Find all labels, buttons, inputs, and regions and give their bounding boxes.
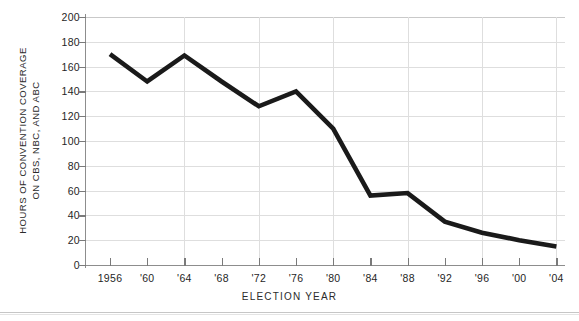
x-axis-title: ELECTION YEAR: [0, 291, 579, 302]
y-axis-title-line-2: ON CBS, NBC, AND ABC: [29, 47, 42, 234]
y-axis-tick: [79, 141, 86, 142]
gridline-horizontal: [85, 91, 565, 92]
y-axis-tick-label: 140: [52, 85, 80, 97]
x-axis-tick: [333, 258, 334, 266]
gridline-vertical: [408, 17, 409, 265]
y-axis-tick: [79, 91, 86, 92]
x-axis-tick: [296, 258, 297, 266]
page-bottom-rule-secondary: [0, 314, 579, 315]
y-axis-tick: [79, 166, 86, 167]
gridline-vertical: [333, 17, 334, 265]
plot-area: [85, 17, 565, 265]
gridline-horizontal: [85, 240, 565, 241]
x-axis-tick-label: '04: [549, 272, 564, 284]
y-axis-tick: [79, 240, 86, 241]
gridline-horizontal: [85, 42, 565, 43]
x-axis-tick-label: '84: [363, 272, 378, 284]
x-axis-tick-label: '92: [438, 272, 453, 284]
x-axis-tick: [184, 258, 185, 266]
x-axis-tick-label: '64: [177, 272, 192, 284]
y-axis-tick: [79, 67, 86, 68]
y-axis-tick-labels: 200180160140120100806040200: [52, 0, 80, 321]
y-axis-tick-label: 120: [52, 110, 80, 122]
gridline-horizontal: [85, 17, 565, 18]
x-axis-tick-label: '88: [400, 272, 415, 284]
x-axis-tick: [445, 258, 446, 266]
gridline-horizontal: [85, 141, 565, 142]
x-axis-line: [78, 265, 565, 266]
x-axis-tick-label: 1956: [98, 272, 123, 284]
gridline-horizontal: [85, 166, 565, 167]
y-axis-tick: [79, 17, 86, 18]
x-axis-tick: [147, 258, 148, 266]
y-axis-tick-label: 20: [52, 234, 80, 246]
y-axis-tick: [79, 265, 86, 266]
x-axis-tick-label: '68: [214, 272, 229, 284]
x-axis-tick-label: '96: [475, 272, 490, 284]
x-axis-tick: [408, 258, 409, 266]
x-axis-tick-label: '72: [252, 272, 267, 284]
y-axis-tick-label: 180: [52, 36, 80, 48]
y-axis-tick: [79, 116, 86, 117]
gridline-horizontal: [85, 67, 565, 68]
gridline-vertical: [556, 17, 557, 265]
gridline-horizontal: [85, 116, 565, 117]
x-axis-tick: [222, 258, 223, 266]
x-axis-tick: [519, 258, 520, 266]
gridline-horizontal: [85, 215, 565, 216]
gridline-vertical: [184, 17, 185, 265]
page-bottom-rule: [0, 312, 579, 313]
y-axis-tick: [79, 191, 86, 192]
y-axis-tick-label: 200: [52, 11, 80, 23]
chart-screenshot: HOURS OF CONVENTION COVERAGE ON CBS, NBC…: [0, 0, 579, 321]
y-axis-tick-label: 60: [52, 185, 80, 197]
x-axis-tick-label: '80: [326, 272, 341, 284]
x-axis-tick-label: '00: [512, 272, 527, 284]
x-axis-tick: [370, 258, 371, 266]
y-axis-tick-label: 0: [52, 259, 80, 271]
gridline-vertical: [482, 17, 483, 265]
x-axis-tick-label: '60: [140, 272, 155, 284]
y-axis-tick: [79, 215, 86, 216]
x-axis-tick: [556, 258, 557, 266]
y-axis-tick: [79, 42, 86, 43]
x-axis-tick-label: '76: [289, 272, 304, 284]
x-axis-tick: [110, 258, 111, 266]
y-axis-tick-label: 40: [52, 209, 80, 221]
y-axis-tick-label: 100: [52, 135, 80, 147]
x-axis-tick: [259, 258, 260, 266]
x-axis-tick: [482, 258, 483, 266]
y-axis-title: HOURS OF CONVENTION COVERAGE ON CBS, NBC…: [0, 0, 58, 280]
y-axis-tick-label: 160: [52, 61, 80, 73]
y-axis-title-line-1: HOURS OF CONVENTION COVERAGE: [17, 47, 30, 234]
y-axis-tick-label: 80: [52, 160, 80, 172]
gridline-horizontal: [85, 191, 565, 192]
gridline-vertical: [259, 17, 260, 265]
